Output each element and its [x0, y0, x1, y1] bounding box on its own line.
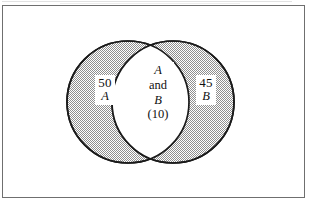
venn-label-intersection-connector: and	[142, 78, 174, 93]
venn-label-set-b-name: B	[197, 90, 215, 103]
venn-label-intersection-set-b: B	[142, 93, 174, 108]
venn-label-set-b-only: 45 B	[196, 75, 216, 105]
venn-label-set-b-count: 45	[197, 76, 215, 90]
venn-label-set-a-only: 50 A	[95, 75, 115, 105]
venn-label-set-a-name: A	[96, 90, 114, 103]
venn-label-set-a-count: 50	[96, 76, 114, 90]
venn-figure-root: 50 A A and B (10) 45 B	[0, 0, 311, 205]
venn-label-intersection: A and B (10)	[142, 62, 174, 124]
venn-label-intersection-count: (10)	[142, 107, 174, 122]
venn-label-intersection-set-a: A	[142, 63, 174, 78]
